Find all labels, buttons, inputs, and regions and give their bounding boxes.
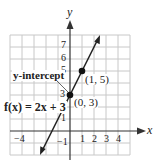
point-label-1-5: (1, 5) [85,74,109,85]
y-tick-neg1: −1 [57,137,68,147]
line-arrow-top-icon [94,35,100,44]
y-axis-label: y [67,6,72,18]
line-arrow-bottom-icon [40,146,46,155]
x-axis-label: x [147,124,152,136]
point-label-0-3: (0, 3) [74,97,98,108]
point-0-3 [67,92,74,99]
x-tick-neg4: −4 [14,134,25,144]
y-axis-arrow-icon [67,20,74,29]
function-label: f(x) = 2x + 3 [3,101,67,113]
y-tick-6: 6 [61,53,66,63]
x-tick-2: 2 [92,134,97,144]
x-tick-1: 1 [80,134,85,144]
y-tick-7: 7 [61,40,66,50]
y-tick-1: 1 [61,113,66,123]
x-tick-4: 4 [116,134,121,144]
y-intercept-label: y-intercept [12,70,65,81]
x-axis-arrow-icon [137,128,146,135]
y-tick-3: 3 [60,89,65,99]
x-tick-3: 3 [104,134,109,144]
